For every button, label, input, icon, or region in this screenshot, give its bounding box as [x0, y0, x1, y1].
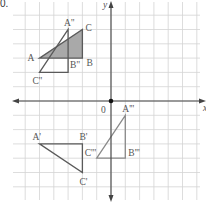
vertex-label: A': [33, 132, 42, 142]
axes: [12, 1, 206, 202]
vertex-label: A: [28, 53, 35, 63]
vertex-label: A''': [122, 104, 134, 114]
x-axis-label: x: [202, 103, 206, 113]
x-axis-left-arrow-icon: [12, 99, 19, 104]
vertex-label: B''': [128, 148, 140, 158]
vertex-label: B: [86, 58, 92, 68]
vertex-label: C''': [85, 148, 97, 158]
y-axis-down-arrow-icon: [109, 195, 114, 202]
vertex-label: C'': [33, 76, 43, 86]
origin-dot: [109, 99, 114, 104]
vertex-label: C: [85, 23, 91, 33]
origin-label: 0: [101, 105, 106, 115]
vertex-label: A'': [64, 18, 75, 28]
y-axis-label: y: [102, 0, 108, 10]
coordinate-plane: ABCA''B''C''A'B'C'A'''B'''C'''y0x: [0, 0, 206, 204]
y-axis-up-arrow-icon: [109, 1, 114, 8]
vertex-label: B'': [70, 60, 80, 70]
vertex-label: C': [79, 177, 87, 187]
vertex-label: B': [79, 132, 87, 142]
